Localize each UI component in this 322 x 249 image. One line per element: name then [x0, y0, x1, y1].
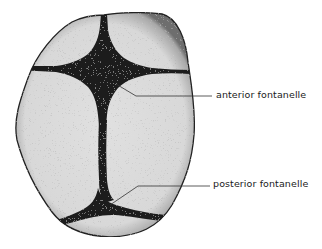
skull-diagram — [0, 0, 322, 249]
anterior-fontanelle-label: anterior fontanelle — [216, 89, 306, 100]
posterior-fontanelle-label: posterior fontanelle — [213, 178, 308, 189]
